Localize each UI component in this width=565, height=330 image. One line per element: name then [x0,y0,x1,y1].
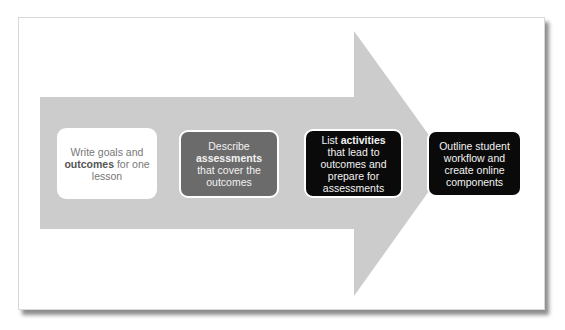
step-4-outline-workflow: Outline student workflow and create onli… [427,130,522,197]
step-2-text: Describe assessments that cover the outc… [187,140,271,188]
step-3-list-activities: List activities that lead to outcomes an… [304,129,403,198]
step-2-describe-assessments: Describe assessments that cover the outc… [179,130,279,198]
diagram-card: Write goals and outcomes for one lesson … [18,17,545,310]
step-3-text: List activities that lead to outcomes an… [312,134,395,194]
step-1-text: Write goals and outcomes for one lesson [63,146,151,182]
step-4-text: Outline student workflow and create onli… [435,140,514,188]
step-1-write-goals: Write goals and outcomes for one lesson [57,128,157,199]
